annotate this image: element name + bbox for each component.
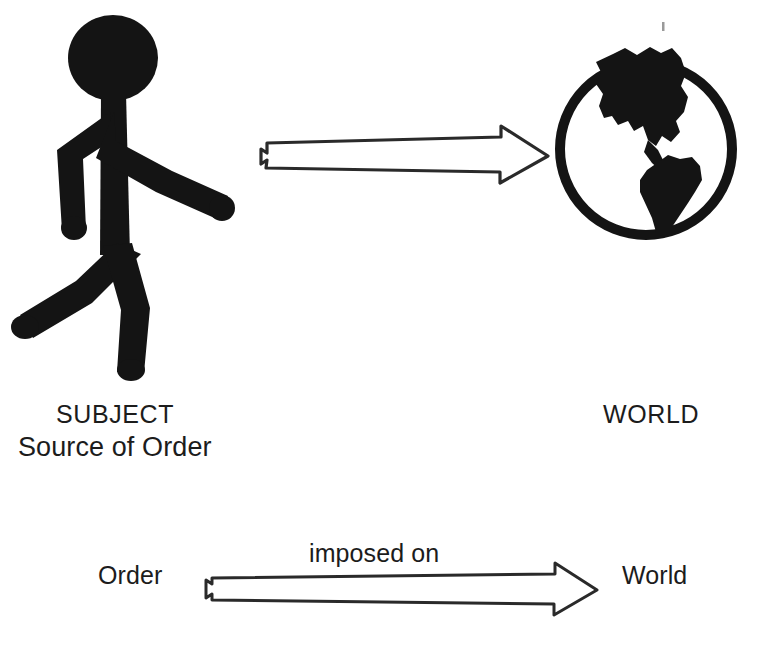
stick-figure-person [11, 15, 235, 381]
globe-americas-icon [560, 22, 732, 238]
scan-speck [662, 22, 665, 31]
bottom-arrow [206, 563, 597, 615]
order-term: Order [98, 563, 162, 588]
imposed-on-relation-label: imposed on [309, 541, 439, 566]
figure-right-hand [209, 195, 235, 221]
diagram-canvas: SUBJECT Source of Order WORLD Order impo… [0, 0, 778, 669]
figure-front-leg [103, 243, 150, 373]
figure-back-foot [11, 315, 39, 339]
subject-label: SUBJECT [56, 402, 174, 427]
world-label: WORLD [603, 402, 699, 427]
world-term: World [622, 563, 687, 588]
figure-front-foot [117, 359, 145, 381]
north-america-shape [596, 47, 688, 146]
figure-head [68, 15, 158, 101]
source-of-order-label: Source of Order [18, 434, 212, 461]
top-arrow [261, 126, 548, 183]
figure-left-hand [61, 216, 87, 240]
